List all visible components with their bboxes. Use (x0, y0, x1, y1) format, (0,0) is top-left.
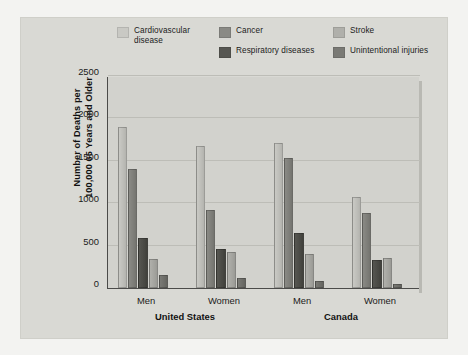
legend-item-cardiovascular-disease[interactable]: Cardiovascular disease (117, 26, 217, 45)
bar-men-0-cancer[interactable] (128, 169, 137, 288)
gridline-2500 (108, 75, 420, 76)
legend-swatch-stroke (333, 27, 345, 38)
legend-item-respiratory-diseases[interactable]: Respiratory diseases (219, 46, 329, 58)
gridline-2000 (108, 117, 420, 118)
y-tick-label-1000: 1000 (78, 193, 99, 204)
y-axis-tick-labels: 05001000150020002500 (65, 77, 103, 289)
y-tick-label-500: 500 (83, 235, 99, 246)
x-category-label-united-states: United States (107, 311, 263, 322)
bar-women-1-cancer[interactable] (206, 210, 215, 288)
bar-women-3-stroke[interactable] (383, 258, 392, 288)
bar-men-0-unintentional-injuries[interactable] (159, 275, 168, 288)
bar-women-3-cancer[interactable] (362, 213, 371, 288)
bar-women-1-respiratory-diseases[interactable] (216, 249, 225, 288)
legend-swatch-cardiovascular-disease (117, 27, 129, 38)
bar-women-3-respiratory-diseases[interactable] (372, 260, 381, 288)
legend-item-unintentional-injuries[interactable]: Unintentional injuries (333, 46, 453, 58)
legend-label-stroke: Stroke (350, 26, 374, 36)
y-axis-title-container: Number of Deaths per 100,000 65 Years an… (45, 78, 67, 288)
gridline-1000 (108, 202, 420, 203)
plot-edge-shadow (419, 81, 422, 293)
bar-men-0-respiratory-diseases[interactable] (138, 238, 147, 288)
bar-men-2-cancer[interactable] (284, 158, 293, 288)
bar-men-2-respiratory-diseases[interactable] (294, 233, 303, 288)
legend-label-cardiovascular-disease: Cardiovascular disease (134, 26, 190, 45)
x-group-label-0-men: Men (107, 295, 185, 306)
bar-women-1-unintentional-injuries[interactable] (237, 278, 246, 288)
bar-men-2-cardiovascular-disease[interactable] (274, 143, 283, 288)
plot-area (107, 77, 419, 289)
x-category-label-canada: Canada (263, 311, 419, 322)
gridline-1500 (108, 160, 420, 161)
bar-women-3-cardiovascular-disease[interactable] (352, 197, 361, 288)
x-group-label-3-women: Women (341, 295, 419, 306)
bar-women-3-unintentional-injuries[interactable] (393, 284, 402, 288)
y-tick-label-0: 0 (94, 278, 99, 289)
legend-swatch-respiratory-diseases (219, 47, 231, 58)
legend-label-respiratory-diseases: Respiratory diseases (236, 46, 314, 56)
gridline-500 (108, 245, 420, 246)
legend-label-cancer: Cancer (236, 26, 263, 36)
plot-area-wrapper (107, 77, 419, 289)
chart-figure: Cardiovascular disease Cancer Stroke Res… (21, 18, 447, 338)
legend-swatch-cancer (219, 27, 231, 38)
legend-item-cancer[interactable]: Cancer (219, 26, 311, 38)
bar-men-2-unintentional-injuries[interactable] (315, 281, 324, 288)
y-tick-label-2000: 2000 (78, 108, 99, 119)
legend-swatch-unintentional-injuries (333, 47, 345, 58)
legend-label-unintentional-injuries: Unintentional injuries (350, 46, 428, 56)
x-group-label-1-women: Women (185, 295, 263, 306)
bar-women-1-stroke[interactable] (227, 252, 236, 288)
y-tick-label-2500: 2500 (78, 66, 99, 77)
x-group-label-2-men: Men (263, 295, 341, 306)
bar-men-2-stroke[interactable] (305, 254, 314, 288)
bar-women-1-cardiovascular-disease[interactable] (196, 146, 205, 288)
legend-item-stroke[interactable]: Stroke (333, 26, 423, 38)
y-tick-label-1500: 1500 (78, 150, 99, 161)
bar-men-0-stroke[interactable] (149, 259, 158, 288)
bar-men-0-cardiovascular-disease[interactable] (118, 127, 127, 288)
